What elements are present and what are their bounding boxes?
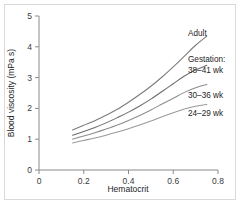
annotation-38-41-wk: 38–41 wk xyxy=(188,66,224,75)
y-tick-label: 3 xyxy=(27,73,32,83)
x-tick-label: 0.8 xyxy=(212,176,224,186)
y-tick-label: 1 xyxy=(27,134,32,144)
annotation-30-36-wk: 30–36 wk xyxy=(188,91,224,100)
y-tick-label: 4 xyxy=(27,42,32,52)
y-tick-label: 2 xyxy=(27,103,32,113)
y-tick-label: 5 xyxy=(27,11,32,21)
annotation-24-29-wk: 24–29 wk xyxy=(188,109,224,118)
curve-30-36-wk xyxy=(73,84,207,139)
blood-viscosity-chart: 012345 00.20.40.60.8 AdultGestation:38–4… xyxy=(0,0,240,204)
y-tick-label: 0 xyxy=(27,165,32,175)
y-axis-title: Blood viscosity (mPa s) xyxy=(6,49,16,137)
annotation-gestation-: Gestation: xyxy=(188,55,225,64)
y-axis-ticks: 012345 xyxy=(27,11,39,175)
figure-container: 012345 00.20.40.60.8 AdultGestation:38–4… xyxy=(0,0,240,204)
x-axis-title: Hematocrit xyxy=(107,184,149,194)
x-tick-label: 0.2 xyxy=(78,176,90,186)
x-tick-label: 0.6 xyxy=(167,176,179,186)
data-curves xyxy=(73,36,207,143)
annotation-adult: Adult xyxy=(188,29,207,38)
x-tick-label: 0 xyxy=(37,176,42,186)
curve-24-29-wk xyxy=(73,104,207,142)
